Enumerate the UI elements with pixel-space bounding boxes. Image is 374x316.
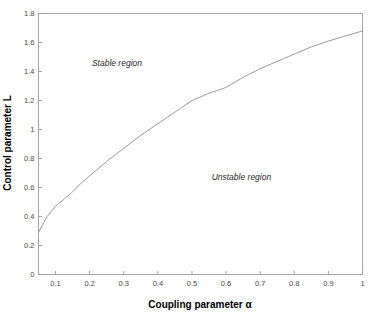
x-tick-label: 0.1 xyxy=(50,279,60,288)
y-tick-label: 0.4 xyxy=(24,212,34,221)
y-tick-label: 1.6 xyxy=(24,38,34,47)
y-tick-label: 1.8 xyxy=(24,9,34,18)
x-tick-label: 0.3 xyxy=(119,279,129,288)
x-tick-label: 0.4 xyxy=(153,279,163,288)
x-tick-label: 0.5 xyxy=(187,279,197,288)
x-tick-label: 0.7 xyxy=(255,279,265,288)
y-tick-label: 1 xyxy=(30,125,34,134)
x-axis-title: Coupling parameter α xyxy=(148,299,252,310)
x-tick-label: 0.2 xyxy=(84,279,94,288)
y-tick-label: 0.6 xyxy=(24,183,34,192)
x-tick-label: 0.9 xyxy=(323,279,333,288)
y-tick-label: 1.2 xyxy=(24,96,34,105)
y-axis-title: Control parameter L xyxy=(2,95,13,191)
stable-region-label: Stable region xyxy=(92,58,142,68)
y-tick-label: 1.4 xyxy=(24,67,34,76)
x-tick-label: 1 xyxy=(360,279,364,288)
x-tick-label: 0.6 xyxy=(221,279,231,288)
y-tick-label: 0.8 xyxy=(24,154,34,163)
y-tick-label: 0 xyxy=(30,270,34,279)
unstable-region-label: Unstable region xyxy=(212,172,272,182)
stability-boundary-chart: 00.20.40.60.811.21.41.61.8 0.10.20.30.40… xyxy=(0,0,374,316)
x-tick-label: 0.8 xyxy=(289,279,299,288)
chart-figure: 00.20.40.60.811.21.41.61.8 0.10.20.30.40… xyxy=(0,0,374,316)
y-tick-label: 0.2 xyxy=(24,241,34,250)
figure-background xyxy=(0,0,374,316)
